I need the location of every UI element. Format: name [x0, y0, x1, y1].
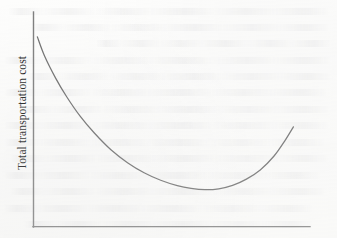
chart-plot-area	[0, 0, 337, 238]
figure-container: Total transportation cost	[0, 0, 337, 238]
total-cost-curve	[37, 37, 293, 190]
y-axis-label: Total transportation cost	[14, 38, 30, 188]
axis-lines	[33, 12, 310, 227]
